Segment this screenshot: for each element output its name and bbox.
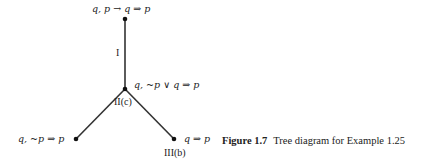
node-root — [123, 17, 128, 22]
right-leaf-label: q ⇒ p — [184, 133, 210, 144]
figure-number: Figure 1.7 — [222, 135, 267, 146]
node-branch — [123, 87, 128, 92]
root-label: q, p → q ⇒ p — [92, 3, 150, 14]
right-leaf-rule-label: III(b) — [164, 147, 186, 158]
left-leaf-label: q, ~p ⇒ p — [18, 133, 64, 144]
node-left-leaf — [74, 137, 79, 142]
branch-rule-label: II(c) — [114, 96, 132, 107]
trunk-rule-label: I — [116, 47, 119, 58]
branch-label: q, ~p ∨ q ⇒ p — [134, 79, 199, 90]
caption-text: Tree diagram for Example 1.25 — [273, 135, 405, 146]
edge-branch-right — [125, 89, 174, 139]
figure-caption: Figure 1.7Tree diagram for Example 1.25 — [222, 134, 422, 147]
node-right-leaf — [172, 137, 177, 142]
